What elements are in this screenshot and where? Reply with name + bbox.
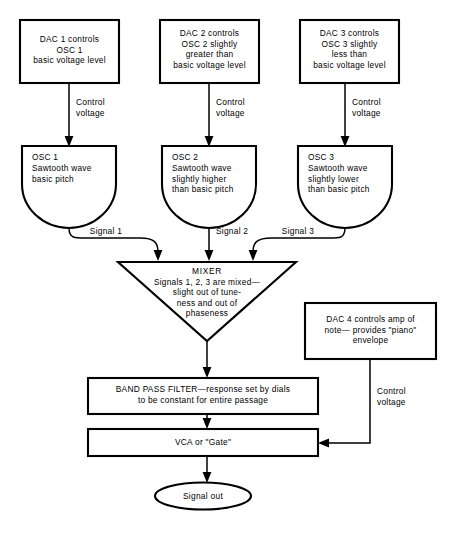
signal-out-ellipse[interactable] (155, 483, 251, 510)
dac4-box[interactable] (305, 303, 436, 359)
edge-cv2 (205, 83, 214, 147)
osc2-shape[interactable] (162, 146, 256, 228)
vca-box[interactable] (88, 429, 318, 456)
osc1-shape[interactable] (22, 146, 116, 228)
bandpass-filter-box[interactable] (88, 378, 318, 414)
edge-cv1 (65, 83, 74, 147)
dac3-box[interactable] (300, 20, 399, 83)
edge-vca-to-signalout (203, 456, 212, 483)
edge-mixer-to-bandpass (203, 341, 212, 378)
edge-cv3 (341, 83, 350, 147)
edge-signal2 (205, 228, 214, 261)
dac1-box[interactable] (20, 20, 119, 83)
mixer-shape[interactable] (118, 262, 296, 341)
flowchart-canvas: DAC 1 controls OSC 1 basic voltage level… (0, 0, 451, 541)
edge-signal1 (69, 228, 162, 261)
edge-bandpass-to-vca (203, 414, 212, 429)
edge-signal3 (249, 228, 345, 261)
diagram-shapes-layer (0, 0, 451, 541)
edge-cv4 (318, 359, 370, 447)
osc3-shape[interactable] (298, 146, 392, 228)
dac2-box[interactable] (160, 20, 259, 83)
